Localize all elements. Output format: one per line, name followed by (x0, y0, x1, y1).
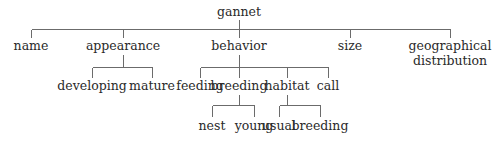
node-habitat-breeding: breeding (292, 118, 349, 133)
node-breeding: breeding (211, 78, 268, 93)
concept-tree-diagram: gannet name appearance behavior size geo… (0, 0, 494, 141)
node-geographical-distribution: geographical distribution (405, 38, 494, 68)
node-appearance: appearance (86, 38, 160, 53)
node-behavior: behavior (211, 38, 266, 53)
node-mature: mature (129, 78, 175, 93)
node-nest: nest (199, 118, 226, 133)
node-developing: developing (57, 78, 126, 93)
node-name: name (14, 38, 49, 53)
node-call: call (317, 78, 339, 93)
node-habitat: habitat (264, 78, 309, 93)
node-size: size (338, 38, 362, 53)
node-gannet: gannet (217, 4, 261, 19)
node-geo-line1: geographical (405, 38, 494, 53)
node-geo-line2: distribution (405, 53, 494, 68)
